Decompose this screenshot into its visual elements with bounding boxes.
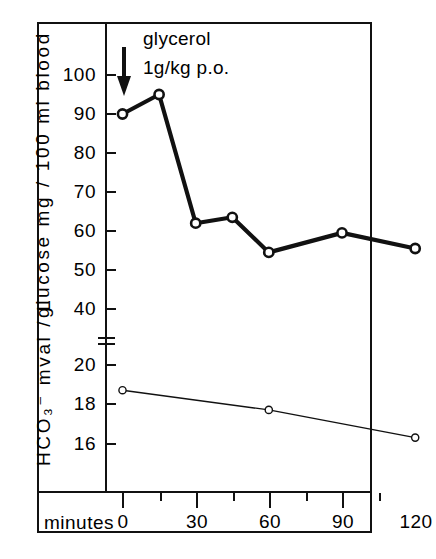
data-point-glucose-60 [264,248,273,257]
data-point-bicarbonate-120 [412,434,419,441]
data-point-glucose-30 [191,219,200,228]
data-point-bicarbonate-60 [265,406,272,413]
data-point-glucose-90 [337,228,346,237]
data-point-glucose-120 [411,244,420,253]
data-point-glucose-0 [118,109,127,118]
series-line-glucose [123,95,416,253]
data-point-bicarbonate-0 [119,387,126,394]
data-point-glucose-15 [155,90,164,99]
data-point-glucose-45 [228,213,237,222]
